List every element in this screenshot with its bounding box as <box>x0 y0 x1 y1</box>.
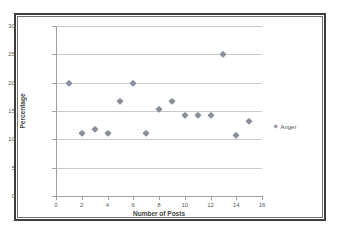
data-point <box>156 105 162 111</box>
x-tick-label-4: 4 <box>106 202 109 208</box>
data-point <box>130 79 136 85</box>
data-point <box>66 79 72 85</box>
plot-area <box>56 26 262 196</box>
legend-label-anger: Anger <box>280 124 296 130</box>
y-tick-label-25: 25 <box>8 51 15 57</box>
y-axis-title: Percentage <box>20 93 27 128</box>
y-tick-label-15: 15 <box>8 108 15 114</box>
y-tick-label-5: 5 <box>12 165 15 171</box>
data-point <box>233 132 239 138</box>
x-tick-label-12: 12 <box>207 202 214 208</box>
x-tick-label-2: 2 <box>80 202 83 208</box>
chart-legend: Anger <box>274 124 296 130</box>
x-tick-label-8: 8 <box>157 202 160 208</box>
data-point <box>207 112 213 118</box>
data-point <box>91 126 97 132</box>
y-tick-label-20: 20 <box>8 80 15 86</box>
chart-frame-inner: 051015202530 0246810121416 Number of Pos… <box>17 16 323 218</box>
x-tick-label-6: 6 <box>132 202 135 208</box>
x-axis-line <box>56 196 262 197</box>
data-point <box>182 112 188 118</box>
data-point <box>194 112 200 118</box>
data-point <box>220 51 226 57</box>
data-point <box>169 98 175 104</box>
data-point <box>79 130 85 136</box>
legend-marker-icon <box>273 125 278 130</box>
data-point <box>117 98 123 104</box>
x-axis-title: Number of Posts <box>56 211 262 218</box>
scatter-chart: 051015202530 0246810121416 Number of Pos… <box>18 17 326 221</box>
y-tick-label-30: 30 <box>8 23 15 29</box>
chart-frame: 051015202530 0246810121416 Number of Pos… <box>14 13 326 221</box>
x-tick-label-14: 14 <box>233 202 240 208</box>
data-point <box>104 130 110 136</box>
data-point <box>143 130 149 136</box>
x-tick-label-16: 16 <box>259 202 266 208</box>
y-tick-label-0: 0 <box>12 193 15 199</box>
x-tick-16 <box>262 196 263 200</box>
x-tick-label-0: 0 <box>54 202 57 208</box>
data-point <box>246 118 252 124</box>
y-tick-label-10: 10 <box>8 136 15 142</box>
x-tick-label-10: 10 <box>181 202 188 208</box>
